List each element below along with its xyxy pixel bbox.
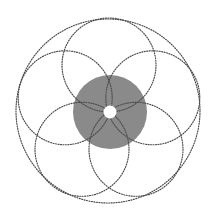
rose-pattern-figure [0,0,218,222]
center-hub-group [104,106,117,119]
center-hub [104,106,117,119]
figure-canvas [0,0,218,222]
